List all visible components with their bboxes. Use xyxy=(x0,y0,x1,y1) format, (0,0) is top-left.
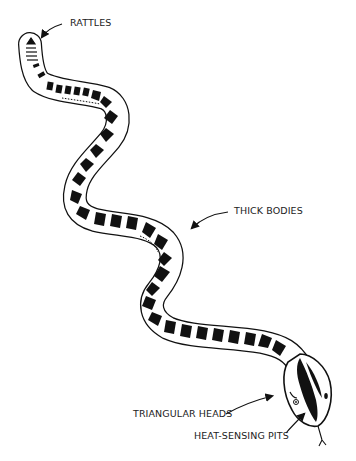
rattlesnake-illustration xyxy=(0,0,356,461)
rattlesnake-diagram: RATTLES THICK BODIES TRIANGULAR HEADS HE… xyxy=(0,0,356,461)
snake-body xyxy=(26,38,300,366)
triangular-heads-arrow xyxy=(226,396,272,414)
label-heat-sensing-pits: HEAT-SENSING PITS xyxy=(194,430,289,441)
label-rattles: RATTLES xyxy=(70,17,111,28)
snake-head xyxy=(284,354,331,446)
rattles-arrow xyxy=(42,24,62,37)
thick-bodies-arrow xyxy=(192,212,228,228)
label-triangular-heads: TRIANGULAR HEADS xyxy=(133,408,232,419)
label-thick-bodies: THICK BODIES xyxy=(234,205,303,216)
tongue xyxy=(318,426,326,446)
